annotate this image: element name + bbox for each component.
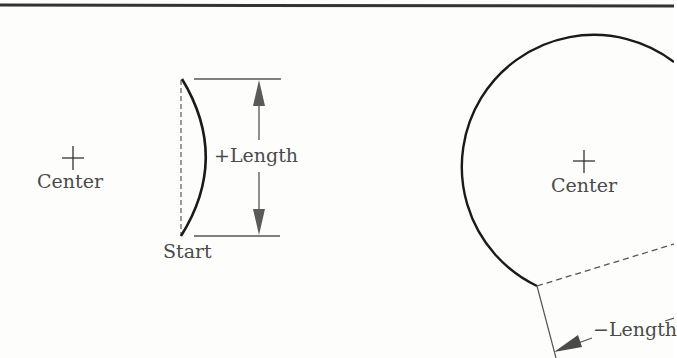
right-center-label: Center [551,176,617,195]
plus-length-label: +Length [214,146,298,165]
large-arc [462,35,674,286]
right-panel [462,35,674,358]
top-border-line [0,5,674,6]
center-cross-icon [62,146,84,170]
minus-length-label: −Length [593,320,677,339]
arrow-down-icon [253,209,265,235]
start-label: Start [163,242,212,261]
short-arc [181,79,206,236]
perpendicular-line [537,286,556,358]
arrow-up-icon [253,80,265,106]
arrow-left-icon [554,335,582,352]
center-cross-icon [573,150,595,173]
left-center-label: Center [37,172,103,191]
chord-dashed-line [537,244,674,286]
